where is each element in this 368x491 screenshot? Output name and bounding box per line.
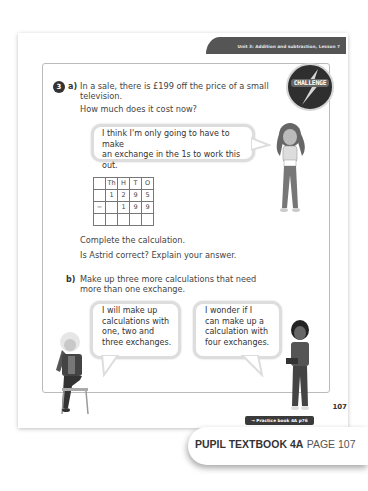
right-speech-bubble: I wonder if I can make up a calculation … [193,301,282,359]
question-number: 3 [53,81,65,93]
table-cell: 1 [118,202,130,214]
practice-book-link[interactable]: → Practice book 4A p76 [245,416,314,425]
unit-header: Unit 3: Addition and subtraction, Lesson… [206,37,346,54]
part-b-letter: b) [66,275,75,284]
astrid-character-icon [270,120,310,215]
table-cell: Th [106,178,118,190]
place-value-table: Th H T O 1 2 9 5 − 1 9 9 [93,177,154,226]
bubble-line: I wonder if I [205,306,279,317]
answer-row [94,214,154,226]
instruction-explain: Is Astrid correct? Explain your answer. [80,250,236,261]
table-cell [94,178,106,190]
page-number: 107 [332,403,347,411]
answer-cell [106,214,118,226]
table-row: − 1 9 9 [94,202,154,214]
bubble-line: four exchanges. [205,338,279,349]
part-a-line1: In a sale, there is £199 off the price o… [80,81,269,92]
part-a-letter: a) [68,82,77,91]
table-cell: H [118,178,130,190]
bubble-tail-icon [100,355,122,377]
bubble-line: calculations with [102,317,178,328]
table-cell: 2 [118,190,130,202]
bubble-tail-icon [251,136,271,152]
bubble-tail-icon [240,355,264,377]
bubble-line: three exchanges. [102,338,178,349]
table-cell: 9 [142,202,154,214]
table-cell: T [130,178,142,190]
table-cell: 9 [130,190,142,202]
boy-character-icon [282,318,318,413]
challenge-label: CHALLENGE [291,79,329,87]
table-cell [106,202,118,214]
table-cell: 1 [106,190,118,202]
left-speech-bubble: I will make up calculations with one, tw… [90,301,181,359]
table-header-row: Th H T O [94,178,154,190]
answer-cell [130,214,142,226]
instruction-complete: Complete the calculation. [80,235,185,246]
part-b-line2: more than one exchange. [80,284,185,295]
answer-cell [142,214,154,226]
bubble-line: an exchange in the 1s to work this out. [102,150,252,171]
table-cell [94,190,106,202]
table-cell: − [94,202,106,214]
astrid-speech-bubble: I think I'm only going to have to make a… [91,124,255,162]
part-a-line3: How much does it cost now? [80,104,197,115]
answer-cell [94,214,106,226]
bubble-line: calculation with [205,327,279,338]
footer-book-title: PUPIL TEXTBOOK 4A [195,438,303,450]
answer-cell [118,214,130,226]
part-b-line1: Make up three more calculations that nee… [80,274,256,285]
bubble-line: I think I'm only going to have to make [102,129,252,150]
part-a-line2: television. [80,91,122,102]
table-cell: 5 [142,190,154,202]
grandparent-character-icon [48,330,96,416]
bubble-line: I will make up [102,306,178,317]
footer-label: PUPIL TEXTBOOK 4A PAGE 107 [195,438,356,450]
lightning-icon [288,65,332,109]
table-cell: 9 [130,202,142,214]
table-cell: O [142,178,154,190]
bubble-line: one, two and [102,327,178,338]
bubble-line: can make up a [205,317,279,328]
challenge-badge: CHALLENGE [286,63,334,111]
table-row: 1 2 9 5 [94,190,154,202]
footer-page: PAGE 107 [307,438,356,450]
